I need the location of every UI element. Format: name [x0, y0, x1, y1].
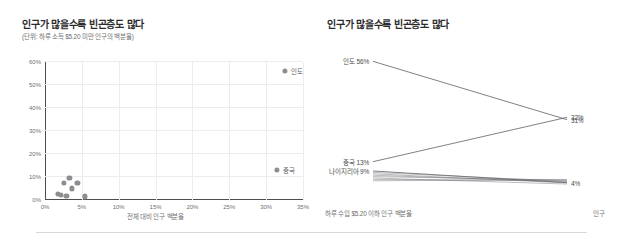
- scatter-point[interactable]: [67, 176, 72, 181]
- gridline-horizontal: [45, 130, 303, 131]
- gridline-vertical: [156, 62, 157, 200]
- slope-left-axis-label: 하루 수입 $5.20 이하 인구 백분율: [325, 208, 412, 218]
- slope-panel: 인구가 많을수록 빈곤층도 많다 인도 56%31%중국 13%32%나이지리아…: [311, 0, 623, 242]
- footer-divider: [36, 232, 587, 233]
- gridline-horizontal: [45, 107, 303, 108]
- slope-line[interactable]: [373, 117, 567, 161]
- scatter-point-label: 중국: [283, 165, 295, 175]
- gridline-vertical: [303, 62, 304, 200]
- scatter-panel: 인구가 많을수록 빈곤층도 많다 (단위: 하루 소득 $5.20 미만 인구의…: [0, 0, 311, 242]
- scatter-y-tick-label: 50%: [29, 82, 41, 88]
- scatter-x-tick-label: 0%: [41, 204, 50, 210]
- scatter-y-tick-label: 0%: [32, 197, 41, 203]
- scatter-x-tick-label: 5%: [78, 204, 87, 210]
- gridline-horizontal: [45, 153, 303, 154]
- scatter-point[interactable]: [69, 186, 74, 191]
- scatter-y-tick-label: 30%: [29, 128, 41, 134]
- scatter-y-tick-label: 60%: [29, 59, 41, 65]
- gridline-vertical: [119, 62, 120, 200]
- scatter-x-tick-label: 30%: [260, 204, 272, 210]
- slope-right-label: 4%: [571, 179, 580, 186]
- scatter-y-tick-label: 40%: [29, 105, 41, 111]
- scatter-x-tick-label: 25%: [223, 204, 235, 210]
- slope-line[interactable]: [373, 61, 567, 119]
- scatter-x-tick-label: 20%: [186, 204, 198, 210]
- left-chart-subtitle: (단위: 하루 소득 $5.20 미만 인구의 백분율): [22, 31, 134, 41]
- scatter-plot-area: 0%10%20%30%40%50%60%0%5%10%15%20%25%30%3…: [45, 62, 303, 200]
- scatter-point-labeled[interactable]: [282, 69, 287, 74]
- gridline-horizontal: [45, 176, 303, 177]
- gridline-vertical: [229, 62, 230, 200]
- gridline-horizontal: [45, 61, 303, 62]
- scatter-x-tick-label: 15%: [150, 204, 162, 210]
- slope-right-axis-label: 인구: [593, 208, 605, 218]
- slope-left-label: 나이지리아 9%: [311, 166, 369, 176]
- left-chart-title: 인구가 많을수록 빈곤층도 많다: [22, 16, 144, 31]
- gridline-horizontal: [45, 84, 303, 85]
- scatter-x-tick-label: 10%: [113, 204, 125, 210]
- scatter-y-axis: [45, 62, 46, 200]
- scatter-y-tick-label: 20%: [29, 151, 41, 157]
- scatter-x-tick-label: 35%: [297, 204, 309, 210]
- gridline-vertical: [266, 62, 267, 200]
- scatter-point-labeled[interactable]: [275, 168, 280, 173]
- slope-right-label: 32%: [571, 114, 583, 121]
- gridline-vertical: [192, 62, 193, 200]
- scatter-point[interactable]: [75, 181, 80, 186]
- scatter-point-label: 인도: [291, 66, 303, 76]
- gridline-vertical: [82, 62, 83, 200]
- dashboard-page: 인구가 많을수록 빈곤층도 많다 (단위: 하루 소득 $5.20 미만 인구의…: [0, 0, 623, 242]
- slope-left-label: 인도 56%: [311, 56, 369, 66]
- scatter-point[interactable]: [62, 180, 67, 185]
- right-chart-title: 인구가 많을수록 빈곤층도 많다: [327, 16, 449, 31]
- scatter-x-axis-label: 전체 대비 인구 백분율: [0, 211, 311, 221]
- slope-chart-area: 인도 56%31%중국 13%32%나이지리아 9%4%: [311, 40, 623, 210]
- scatter-y-tick-label: 10%: [29, 174, 41, 180]
